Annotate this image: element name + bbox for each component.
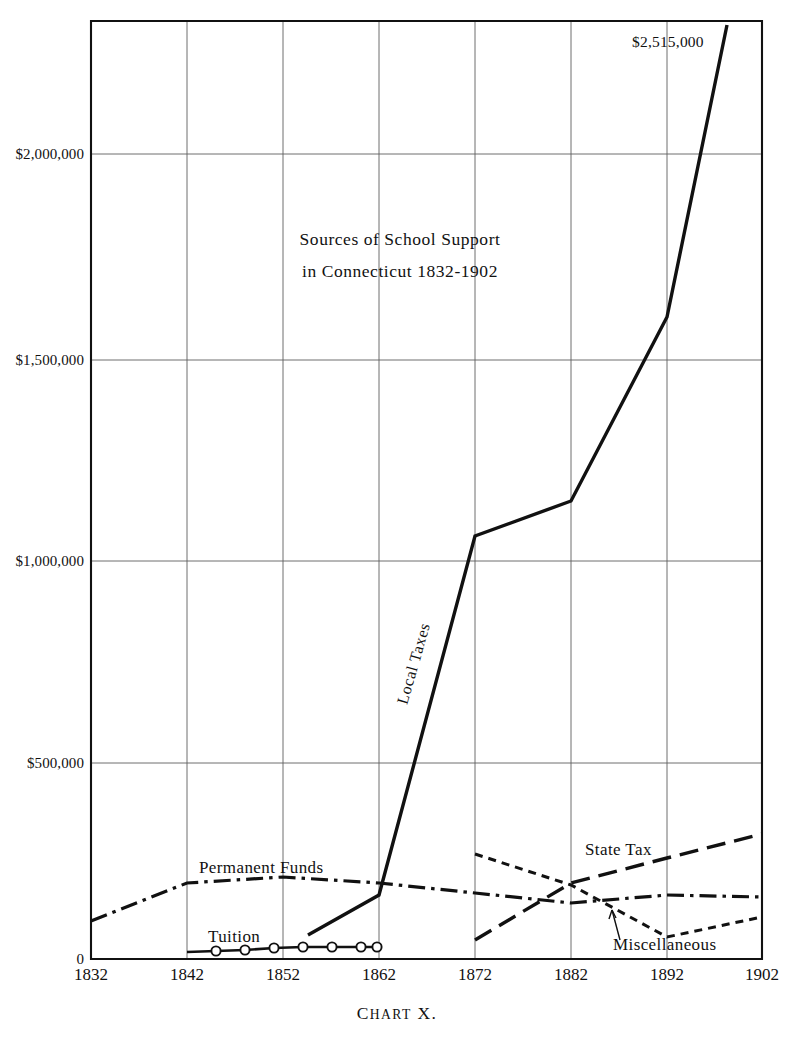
- tuition-marker: [211, 946, 220, 955]
- tuition-marker: [356, 942, 365, 951]
- figure-caption-number: X.: [417, 1003, 437, 1023]
- x-tick-label-1882: 1882: [531, 966, 611, 983]
- x-tick-label-1872: 1872: [435, 966, 515, 983]
- tuition-marker: [372, 942, 381, 951]
- figure-caption-initial: C: [357, 1003, 370, 1023]
- x-tick-label-1862: 1862: [339, 966, 419, 983]
- chart-plot-area: [0, 0, 794, 1039]
- tuition-marker: [240, 945, 249, 954]
- peak-value-annotation: $2,515,000: [632, 34, 704, 50]
- series-line-miscellaneous: [475, 854, 762, 937]
- figure-caption-word: HART: [370, 1007, 412, 1022]
- x-tick-label-1892: 1892: [627, 966, 707, 983]
- x-tick-label-1902: 1902: [722, 966, 794, 983]
- x-tick-label-1832: 1832: [51, 966, 131, 983]
- series-line-permanent-funds: [91, 877, 762, 921]
- tuition-marker: [269, 943, 278, 952]
- vertical-gridlines: [187, 21, 667, 959]
- axis-frame: [91, 21, 762, 959]
- y-tick-label-2000000: $2,000,000: [6, 147, 84, 162]
- series-line-local-taxes: [308, 25, 727, 935]
- y-tick-label-1500000: $1,500,000: [6, 353, 84, 368]
- tuition-marker: [327, 942, 336, 951]
- x-tick-label-1842: 1842: [147, 966, 227, 983]
- series-label-permanent-funds: Permanent Funds: [199, 859, 324, 876]
- series-label-state-tax: State Tax: [585, 841, 652, 858]
- figure-caption: CHART X.: [0, 1005, 794, 1023]
- x-tick-label-1852: 1852: [243, 966, 323, 983]
- tuition-marker: [298, 942, 307, 951]
- y-tick-label-1000000: $1,000,000: [6, 554, 84, 569]
- y-tick-label-500000: $500,000: [6, 756, 84, 771]
- series-label-miscellaneous: Miscellaneous: [613, 936, 716, 953]
- series-label-tuition: Tuition: [208, 928, 260, 945]
- chart-figure: 0 $500,000 $1,000,000 $1,500,000 $2,000,…: [0, 0, 794, 1039]
- chart-title-line-2: in Connecticut 1832-1902: [230, 263, 570, 281]
- y-tick-label-0: 0: [6, 952, 84, 967]
- chart-title-line-1: Sources of School Support: [230, 231, 570, 249]
